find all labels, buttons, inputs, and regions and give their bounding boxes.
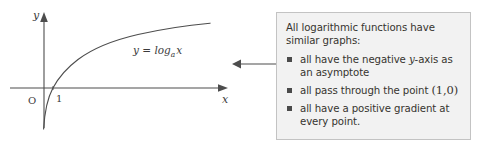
curve-equation-label: y = logax <box>132 44 182 59</box>
bullet-text-before: all have a positive gradient at every po… <box>300 103 449 127</box>
graph-svg: y x O 1 y = logax <box>0 0 250 149</box>
logarithm-curve <box>44 23 210 129</box>
curve-label-main: y = log <box>132 44 171 56</box>
y-axis-label: y <box>32 9 40 22</box>
callout-box: All logarithmic functions have similar g… <box>276 12 471 140</box>
x-axis-label: x <box>222 93 229 106</box>
connector-svg <box>232 54 278 74</box>
svg-text:y = logax: y = logax <box>132 44 182 59</box>
x-axis-arrowhead <box>218 84 228 92</box>
bullet-text-before: all pass through the point <box>300 85 431 96</box>
callout-connector <box>232 54 278 74</box>
origin-label: O <box>28 95 36 106</box>
curve-label-base: a <box>171 50 175 59</box>
bullet-square-icon <box>287 88 292 93</box>
connector-arrowhead-icon <box>232 60 241 69</box>
x-tick-label-1: 1 <box>56 93 62 104</box>
callout-bullet-list: all have the negative y-axis as an asymp… <box>286 53 461 128</box>
callout-bullet-item: all pass through the point (1,0) <box>286 84 461 97</box>
bullet-square-icon <box>287 57 292 62</box>
bullet-text-before: all have the negative <box>300 54 409 65</box>
callout-intro-text: All logarithmic functions have similar g… <box>286 21 461 47</box>
y-axis-arrowhead <box>40 12 48 22</box>
callout-bullet-item: all have the negative y-axis as an asymp… <box>286 53 461 79</box>
callout-bullet-item: all have a positive gradient at every po… <box>286 102 461 128</box>
bullet-square-icon <box>287 106 292 111</box>
curve-label-arg: x <box>176 44 182 56</box>
bullet-math-point: (1,0) <box>431 83 458 97</box>
logarithm-graph-panel: y x O 1 y = logax <box>0 0 250 149</box>
